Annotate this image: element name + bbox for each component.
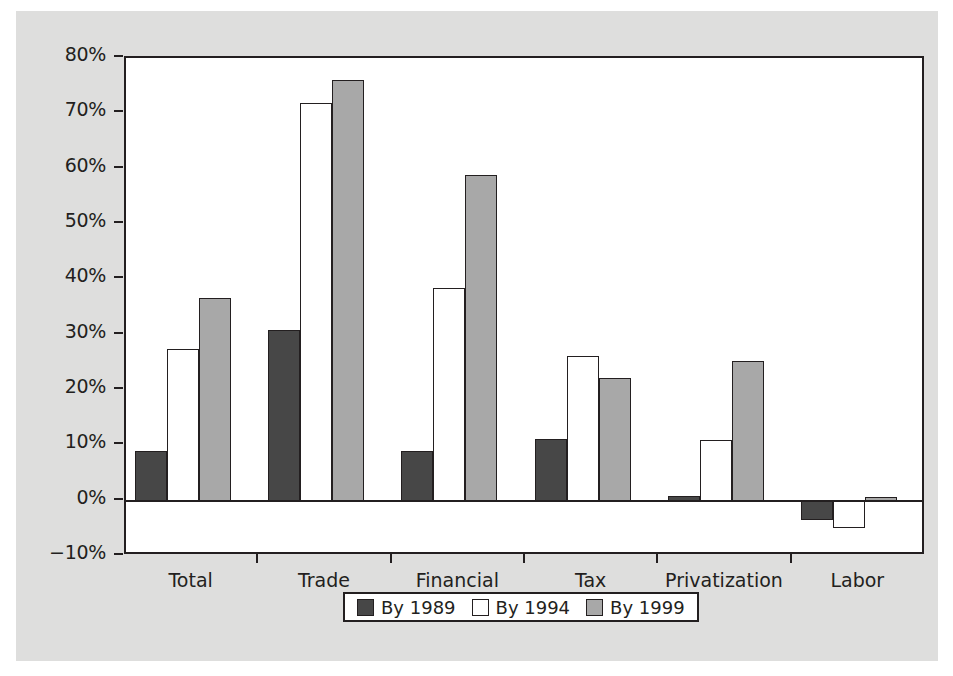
bar — [268, 330, 300, 500]
y-axis-tick — [114, 55, 123, 57]
bar — [535, 439, 567, 501]
bar — [167, 349, 199, 501]
bar — [433, 288, 465, 500]
x-axis-tick — [656, 554, 658, 563]
bar — [199, 298, 231, 501]
bar — [135, 451, 167, 501]
x-axis-tick — [256, 554, 258, 563]
x-axis-label: Tax — [524, 569, 657, 591]
legend-label: By 1999 — [610, 597, 685, 618]
chart-legend: By 1989By 1994By 1999 — [343, 592, 699, 622]
y-axis-label: 10% — [14, 430, 106, 452]
legend-entry: By 1989 — [357, 597, 456, 618]
y-axis-tick — [114, 498, 123, 500]
legend-label: By 1989 — [381, 597, 456, 618]
bar — [401, 451, 433, 501]
y-axis-tick — [114, 387, 123, 389]
legend-entry: By 1994 — [472, 597, 571, 618]
y-axis-label: 30% — [14, 320, 106, 342]
bar — [599, 378, 631, 501]
y-axis-label: −10% — [14, 541, 106, 563]
bar — [465, 175, 497, 501]
y-axis-tick — [114, 276, 123, 278]
legend-label: By 1994 — [496, 597, 571, 618]
bar — [668, 496, 700, 501]
y-axis-label: 0% — [14, 486, 106, 508]
legend-swatch — [472, 599, 489, 616]
bar — [833, 501, 865, 529]
x-axis-label: Financial — [391, 569, 524, 591]
y-axis-tick — [114, 442, 123, 444]
bar — [332, 80, 364, 501]
chart-panel: 80%70%60%50%40%30%20%10%0%−10% TotalTrad… — [16, 11, 938, 661]
chart-figure: 80%70%60%50%40%30%20%10%0%−10% TotalTrad… — [0, 0, 953, 676]
y-axis-tick — [114, 221, 123, 223]
y-axis-label: 60% — [14, 154, 106, 176]
x-axis-tick — [523, 554, 525, 563]
y-axis-tick — [114, 110, 123, 112]
y-axis-tick — [114, 332, 123, 334]
x-axis-tick — [390, 554, 392, 563]
y-axis-label: 50% — [14, 209, 106, 231]
x-axis-label: Total — [124, 569, 257, 591]
x-axis-label: Trade — [257, 569, 390, 591]
y-axis-tick — [114, 553, 123, 555]
y-axis-label: 80% — [14, 43, 106, 65]
bar — [865, 497, 897, 500]
x-axis-label: Labor — [791, 569, 924, 591]
y-axis-tick — [114, 166, 123, 168]
bar — [801, 501, 833, 520]
y-axis-label: 20% — [14, 375, 106, 397]
legend-swatch — [357, 599, 374, 616]
bar — [700, 440, 732, 501]
x-axis-label: Privatization — [657, 569, 790, 591]
x-axis-tick — [790, 554, 792, 563]
y-axis-label: 70% — [14, 98, 106, 120]
legend-entry: By 1999 — [586, 597, 685, 618]
bar — [300, 103, 332, 500]
legend-swatch — [586, 599, 603, 616]
bar — [732, 361, 764, 501]
plot-area — [124, 56, 924, 554]
bar — [567, 356, 599, 501]
y-axis-label: 40% — [14, 264, 106, 286]
